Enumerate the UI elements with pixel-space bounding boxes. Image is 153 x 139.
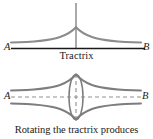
- pseudosphere-endpoint-label-a: A: [4, 90, 10, 101]
- tractrix-caption: Tractrix: [0, 50, 153, 61]
- tractrix-figure: A B Tractrix: [0, 0, 153, 66]
- pseudosphere-endpoint-label-b: B: [142, 90, 148, 101]
- surface-outline-lower-left: [11, 104, 76, 120]
- surface-outline-upper-left: [11, 75, 76, 91]
- tractrix-left-branch: [11, 27, 76, 42]
- figure-panel: A B Tractrix A B Rotating the tractrix p…: [0, 0, 153, 139]
- pseudosphere-caption: Rotating the tractrix produces: [0, 124, 153, 135]
- surface-outline-lower-right: [76, 104, 141, 120]
- tractrix-right-branch: [76, 27, 141, 42]
- surface-outline-upper-right: [76, 75, 141, 91]
- pseudosphere-figure: A B Rotating the tractrix produces: [0, 66, 153, 139]
